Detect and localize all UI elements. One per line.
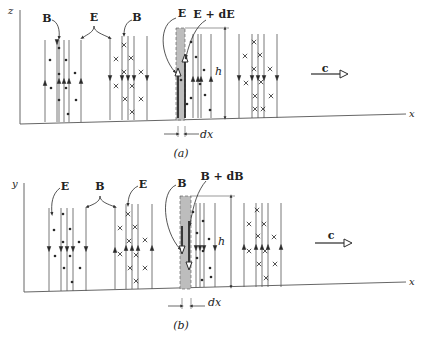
- field-label: B: [132, 11, 141, 24]
- field-direction-arrow-icon: [108, 76, 112, 81]
- field-into-page-cross-icon: [243, 54, 247, 58]
- field-into-page-cross-icon: [128, 266, 132, 270]
- field-into-page-cross-icon: [262, 222, 266, 226]
- horizontal-axis-label: x: [409, 276, 415, 287]
- field-into-page-cross-icon: [114, 84, 118, 88]
- field-out-of-page-dot-icon: [63, 267, 66, 270]
- wave-speed-label: c: [328, 229, 335, 242]
- field-direction-arrow-icon: [237, 76, 241, 81]
- field-into-page-cross-icon: [263, 249, 267, 253]
- label-pointer-arrow: [165, 185, 180, 249]
- field-direction-arrow-icon: [150, 246, 154, 251]
- panel-a-electric-field-xz: zxBEBEE + dEhdxc(a): [7, 5, 415, 160]
- field-into-page-cross-icon: [269, 94, 273, 98]
- field-out-of-page-dot-icon: [195, 56, 198, 59]
- field-out-of-page-dot-icon: [190, 97, 193, 100]
- field-direction-arrow-icon: [55, 40, 59, 45]
- field-out-of-page-dot-icon: [203, 69, 206, 72]
- label-pointer-arrow: [100, 196, 115, 207]
- field-out-of-page-dot-icon: [196, 257, 199, 260]
- field-out-of-page-dot-icon: [199, 83, 202, 86]
- field-into-page-cross-icon: [130, 110, 134, 114]
- field-out-of-page-dot-icon: [74, 72, 77, 75]
- field-out-of-page-dot-icon: [185, 57, 188, 60]
- field-into-page-cross-icon: [134, 253, 138, 257]
- field-into-page-cross-icon: [126, 212, 130, 216]
- field-into-page-cross-icon: [272, 235, 276, 239]
- field-into-page-cross-icon: [258, 53, 262, 57]
- wave-speed-label: c: [322, 62, 329, 75]
- label-pointer-arrow: [128, 186, 138, 205]
- field-direction-arrow-icon: [79, 79, 83, 84]
- field-into-page-cross-icon: [133, 225, 137, 229]
- field-direction-arrow-icon: [124, 246, 128, 251]
- label-pointer-arrow: [94, 26, 110, 38]
- propagation-arrow-head-icon: [344, 239, 352, 247]
- field-out-of-page-dot-icon: [209, 267, 212, 270]
- field-label: E: [139, 178, 147, 191]
- vertical-axis-label: y: [11, 178, 18, 189]
- field-direction-arrow-icon: [275, 76, 279, 81]
- field-direction-arrow-icon: [132, 76, 136, 81]
- field-out-of-page-dot-icon: [186, 103, 189, 106]
- field-out-of-page-dot-icon: [69, 255, 72, 258]
- field-out-of-page-dot-icon: [78, 241, 81, 244]
- field-direction-arrow-icon: [59, 247, 63, 252]
- field-out-of-page-dot-icon: [202, 250, 205, 253]
- field-direction-arrow-icon: [194, 246, 198, 251]
- field-label: B: [177, 177, 186, 190]
- field-direction-arrow-icon: [43, 81, 47, 86]
- field-out-of-page-dot-icon: [49, 59, 52, 62]
- field-into-page-cross-icon: [253, 107, 257, 111]
- field-out-of-page-dot-icon: [65, 59, 68, 62]
- height-label: h: [215, 65, 222, 78]
- em-wave-field-diagram: zxBEBEE + dEhdxc(a) yxEBEBB + dBhdxc(b): [0, 0, 422, 342]
- field-into-page-cross-icon: [122, 70, 126, 74]
- field-direction-arrow-icon: [136, 246, 140, 251]
- field-out-of-page-dot-icon: [196, 232, 199, 235]
- field-into-page-cross-icon: [122, 43, 126, 47]
- field-into-page-cross-icon: [264, 276, 268, 280]
- field-into-page-cross-icon: [255, 208, 259, 212]
- panel-b-magnetic-field-xy: yxEBEBB + dBhdxc(b): [11, 170, 415, 332]
- label-pointer-arrow: [82, 26, 94, 38]
- field-into-page-cross-icon: [256, 234, 260, 238]
- field-direction-arrow-icon: [84, 247, 88, 252]
- label-pointer-arrow: [52, 20, 59, 38]
- horizontal-axis: [20, 114, 406, 124]
- field-into-page-cross-icon: [123, 97, 127, 101]
- field-direction-arrow-icon: [47, 247, 51, 252]
- field-direction-arrow-icon: [209, 77, 213, 82]
- field-out-of-page-dot-icon: [75, 99, 78, 102]
- field-into-page-cross-icon: [118, 226, 122, 230]
- field-out-of-page-dot-icon: [65, 87, 68, 90]
- field-direction-arrow-icon: [62, 79, 66, 84]
- dx-label: dx: [208, 296, 222, 309]
- field-into-page-cross-icon: [139, 70, 143, 74]
- field-direction-arrow-icon: [199, 77, 203, 82]
- field-into-page-cross-icon: [244, 81, 248, 85]
- field-direction-arrow-icon: [279, 245, 283, 250]
- label-pointer-arrow: [186, 20, 206, 57]
- field-out-of-page-dot-icon: [62, 241, 65, 244]
- field-into-page-cross-icon: [273, 262, 277, 266]
- field-into-page-cross-icon: [252, 40, 256, 44]
- field-into-page-cross-icon: [259, 80, 263, 84]
- field-out-of-page-dot-icon: [209, 109, 212, 112]
- field-out-of-page-dot-icon: [58, 99, 61, 102]
- field-direction-arrow-icon: [242, 245, 246, 250]
- field-into-page-cross-icon: [257, 262, 261, 266]
- label-pointer-arrow: [87, 196, 100, 207]
- field-into-page-cross-icon: [114, 57, 118, 61]
- field-label: B: [95, 180, 104, 193]
- field-direction-arrow-icon: [250, 76, 254, 81]
- field-label: E: [178, 7, 186, 20]
- field-into-page-cross-icon: [118, 252, 122, 256]
- field-out-of-page-dot-icon: [62, 213, 65, 216]
- field-into-page-cross-icon: [129, 56, 133, 60]
- label-pointer-arrow: [124, 20, 132, 35]
- field-label: E: [90, 11, 98, 24]
- field-out-of-page-dot-icon: [202, 220, 205, 223]
- field-out-of-page-dot-icon: [208, 238, 211, 241]
- field-into-page-cross-icon: [253, 94, 257, 98]
